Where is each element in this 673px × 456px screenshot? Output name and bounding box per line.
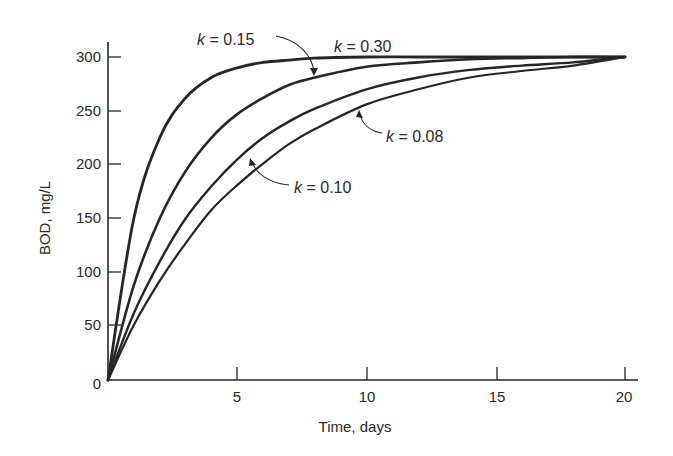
- arrow-k008: [360, 114, 382, 133]
- label-k015: k = 0.15: [197, 31, 254, 48]
- x-tick-labels: 5 10 15 20: [233, 388, 633, 405]
- x-tick-label: 20: [616, 388, 633, 405]
- arrow-k010: [252, 162, 289, 185]
- x-axis-title: Time, days: [319, 418, 392, 435]
- y-tick-label: 200: [76, 155, 101, 172]
- y-tick-label: 50: [84, 316, 101, 333]
- x-tick-label: 5: [233, 388, 241, 405]
- y-tick-labels: 300 250 200 150 100 50 0: [76, 48, 101, 392]
- label-k010: k = 0.10: [294, 179, 351, 196]
- arrowhead-k010: [249, 158, 256, 166]
- y-tick-label: 250: [76, 102, 101, 119]
- arrowhead-k015: [310, 68, 318, 76]
- y-tick-label: 0: [93, 375, 101, 392]
- label-k030: k = 0.30: [334, 38, 391, 55]
- bod-chart: 300 250 200 150 100 50 0 5 10 15 20 Time…: [0, 0, 673, 456]
- y-ticks: [108, 57, 121, 325]
- x-tick-label: 10: [359, 388, 376, 405]
- x-ticks: [237, 367, 625, 380]
- arrowheads: [249, 68, 363, 166]
- y-tick-label: 150: [76, 209, 101, 226]
- label-k008: k = 0.08: [386, 128, 443, 145]
- y-tick-label: 300: [76, 48, 101, 65]
- bod-curves: [108, 57, 625, 380]
- y-tick-label: 100: [76, 263, 101, 280]
- x-tick-label: 15: [489, 388, 506, 405]
- y-axis-title: BOD, mg/L: [36, 181, 53, 255]
- arrow-k015: [276, 36, 314, 72]
- arrowhead-k008: [356, 110, 363, 118]
